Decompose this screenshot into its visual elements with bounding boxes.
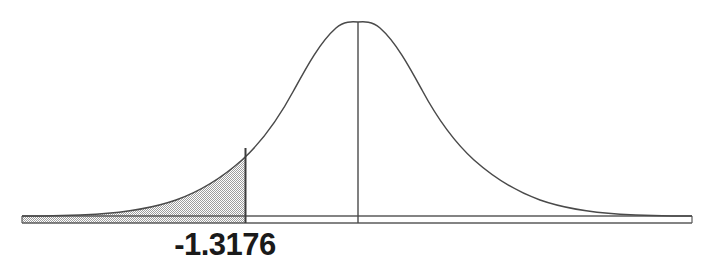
normal-distribution-figure: -1.3176 bbox=[0, 0, 706, 272]
shaded-tail-region bbox=[22, 22, 692, 223]
critical-value-label: -1.3176 bbox=[0, 228, 450, 262]
normal-curve-path bbox=[22, 22, 692, 216]
